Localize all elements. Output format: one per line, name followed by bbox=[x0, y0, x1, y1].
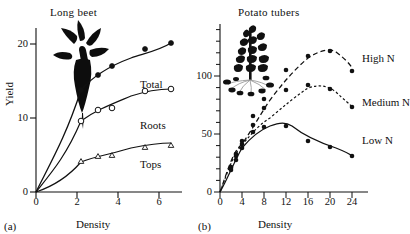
panel-b-xtick-8: 8 bbox=[254, 196, 274, 207]
panel-b-xtick-0: 0 bbox=[210, 196, 230, 207]
panel-b-xtick-16: 16 bbox=[298, 196, 318, 207]
panel-b-x-axis-title: Density bbox=[258, 218, 292, 230]
panel-b-curve-label-high-n: High N bbox=[362, 52, 395, 64]
panel-b-xtick-4: 4 bbox=[232, 196, 252, 207]
panel-a-xtick-6: 6 bbox=[149, 196, 169, 207]
panel-a-y-axis-title: Yield bbox=[3, 82, 15, 106]
beet-plant-icon bbox=[53, 20, 109, 129]
panel-b-curve-label-medium-n: Medium N bbox=[362, 96, 410, 108]
panel-a-xtick-4: 4 bbox=[108, 196, 128, 207]
panel-a-ytick-0: 0 bbox=[6, 186, 28, 197]
panel-a-xtick-2: 2 bbox=[67, 196, 87, 207]
potato-plant-icon bbox=[223, 25, 274, 96]
panel-b-curve-label-low-n: Low N bbox=[362, 134, 393, 146]
panel-a-x-axis-title: Density bbox=[76, 218, 110, 230]
panel-b-xtick-12: 12 bbox=[276, 196, 296, 207]
panel-b-xtick-24: 24 bbox=[342, 196, 362, 207]
panel-a-xtick-0: 0 bbox=[26, 196, 46, 207]
panel-a-ytick-20: 20 bbox=[2, 38, 28, 49]
panel-a-caption: (a) bbox=[4, 220, 16, 232]
panel-b-title: Potato tubers bbox=[238, 6, 300, 18]
panel-a-series-roots bbox=[36, 86, 174, 192]
panel-a-curve-label-tops: Tops bbox=[140, 158, 161, 170]
panel-b-ytick-100: 100 bbox=[185, 70, 212, 81]
panel-long-beet: Long beet Yield Density (a) 0 10 20 0 2 … bbox=[0, 0, 204, 234]
panel-b-series-medium-n bbox=[220, 83, 354, 192]
panel-b-ticks bbox=[214, 30, 352, 198]
panel-b-ytick-50: 50 bbox=[189, 128, 212, 139]
panel-a-ytick-10: 10 bbox=[2, 112, 28, 123]
panel-b-series-high-n bbox=[220, 49, 354, 192]
panel-b-series-low-n bbox=[220, 123, 354, 192]
panel-a-curve-label-roots: Roots bbox=[140, 119, 166, 131]
panel-a-curve-label-total: Total bbox=[140, 78, 162, 90]
panel-b-axes bbox=[220, 24, 368, 192]
panel-b-xtick-20: 20 bbox=[320, 196, 340, 207]
panel-a-title: Long beet bbox=[50, 6, 97, 18]
panel-b-caption: (b) bbox=[198, 220, 211, 232]
panel-potato-tubers: Potato tubers Density (b) 0 50 100 0 4 8… bbox=[196, 0, 408, 234]
